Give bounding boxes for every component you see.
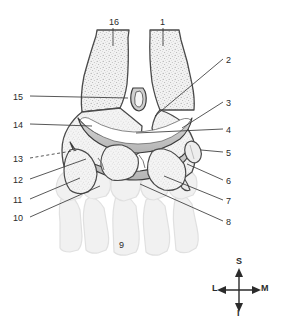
label-12: 12: [13, 176, 23, 185]
distal-radioulnar-notch: [131, 88, 146, 111]
label-2: 2: [226, 56, 231, 65]
label-9: 9: [119, 241, 124, 250]
label-3: 3: [226, 99, 231, 108]
label-15: 15: [13, 93, 23, 102]
label-7: 7: [226, 197, 231, 206]
compass-medial-label: M: [261, 284, 269, 293]
label-8: 8: [226, 218, 231, 227]
compass-inferior-label: I: [237, 309, 240, 318]
label-13: 13: [13, 155, 23, 164]
orientation-compass: [217, 268, 261, 312]
label-5: 5: [226, 149, 231, 158]
leader-5: [201, 150, 223, 152]
label-11: 11: [13, 196, 22, 205]
compass-superior-label: S: [236, 257, 242, 266]
label-14: 14: [13, 121, 23, 130]
wrist-joint-diagram: [0, 0, 286, 326]
label-6: 6: [226, 177, 231, 186]
label-4: 4: [226, 126, 231, 135]
label-10: 10: [13, 214, 23, 223]
label-16: 16: [109, 18, 119, 27]
label-1: 1: [160, 18, 165, 27]
radius-bone: [81, 30, 129, 112]
ulna-bone: [150, 30, 195, 110]
compass-lateral-label: L: [212, 284, 218, 293]
